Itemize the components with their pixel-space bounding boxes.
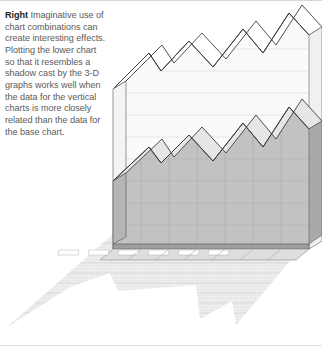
figure-caption: Right Imaginative use of chart combinati… [5,10,106,138]
floor-tick-icon [178,250,199,255]
figure-page: Right Imaginative use of chart combinati… [0,0,322,346]
chart-floor [58,244,309,260]
chart-back-wall [100,13,322,249]
shadow-silhouette [6,235,312,328]
back-series-ribbon-top [113,5,322,89]
front-series-ribbon-top [113,99,322,181]
base-shadow-series [0,235,322,328]
caption-body-text: Imaginative use of chart combinations ca… [5,10,105,137]
floor-tick-icon [118,250,139,255]
front-series-right-cap [309,121,322,244]
shadow-gridlines [0,243,322,323]
back-series-right-cap [309,27,322,249]
back-series-profile [113,13,309,89]
front-series-gridlines [100,1,322,261]
floor-tick-icon [148,250,169,255]
front-series-profile [113,107,309,181]
back-3d-series [113,5,322,249]
floor-tick-icon [208,250,229,255]
floor-depth-lines [128,249,281,260]
floor-tick-icon [88,250,109,255]
floor-tick-markers [58,250,229,255]
front-series-face [113,107,309,244]
wall-gridlines [100,49,322,225]
caption-lead-label: Right [5,10,28,20]
back-series-face [113,13,309,249]
floor-tick-icon [58,250,79,255]
floor-front-edge [113,244,309,249]
front-3d-series [100,1,322,261]
front-series-left-cap [113,173,126,244]
back-series-left-cap [113,81,126,249]
floor-plate [100,249,309,260]
